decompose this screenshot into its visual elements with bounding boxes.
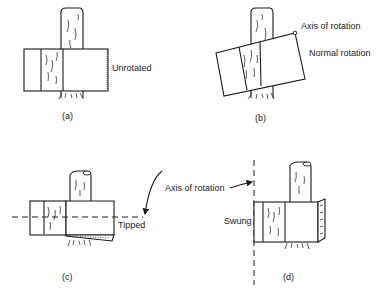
label-axis-of-rotation-b: Axis of rotation: [301, 21, 361, 31]
caption-a: (a): [62, 111, 73, 121]
panel-c: Tipped (c): [12, 171, 162, 282]
panel-b: Axis of rotation Normal rotation (b): [216, 8, 371, 123]
axis-arrow-d: [230, 182, 252, 188]
label-unrotated: Unrotated: [112, 63, 152, 73]
board-icon: [30, 201, 114, 241]
caption-d: (d): [283, 272, 294, 282]
panel-d: Swung (d): [224, 160, 325, 285]
rotation-diagram: Unrotated (a) Axis of rotation Normal ro…: [0, 0, 380, 289]
axis-arrow-c: [145, 171, 162, 214]
label-normal-rotation: Normal rotation: [309, 48, 371, 58]
caption-b: (b): [255, 113, 266, 123]
label-swung: Swung: [224, 216, 252, 226]
label-axis-of-rotation-shared: Axis of rotation: [165, 183, 225, 193]
board-icon: [254, 199, 325, 242]
panel-a: Unrotated (a): [24, 8, 152, 121]
board-icon: [24, 49, 108, 91]
caption-c: (c): [62, 272, 73, 282]
label-tipped: Tipped: [118, 220, 145, 230]
